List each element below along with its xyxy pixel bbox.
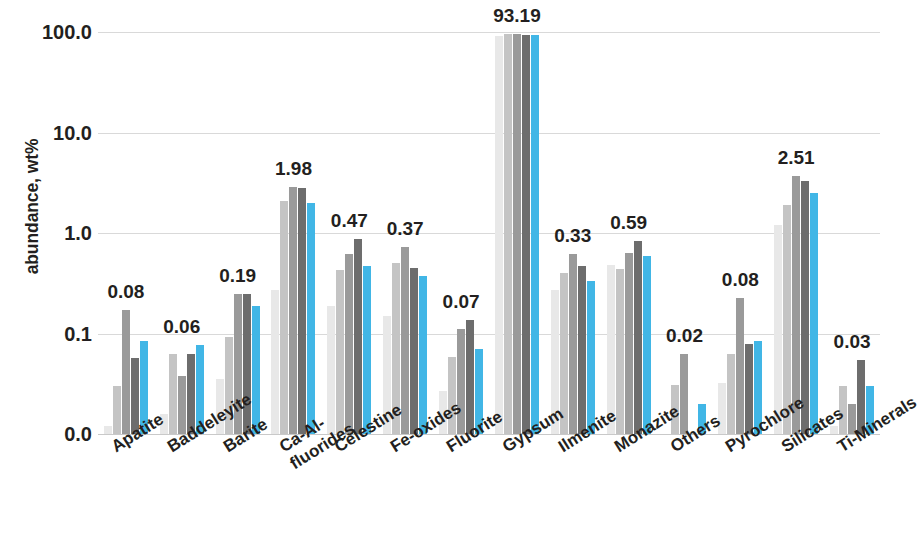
bar	[801, 181, 809, 434]
bar	[122, 310, 130, 434]
bar	[113, 386, 121, 434]
bar-group: 0.19	[210, 32, 266, 434]
bar-group-value-label: 0.19	[219, 266, 256, 285]
bar	[531, 35, 539, 434]
bar	[495, 36, 503, 434]
bar	[104, 426, 112, 434]
bar	[643, 256, 651, 434]
bar-group: 0.02	[657, 32, 713, 434]
bar-group-value-label: 93.19	[493, 6, 541, 25]
bar	[466, 320, 474, 434]
y-axis-tick-label: 100.0	[6, 22, 92, 42]
bar	[178, 376, 186, 434]
bar	[587, 281, 595, 434]
bar	[504, 34, 512, 434]
bar-group-value-label: 0.59	[610, 213, 647, 232]
bar	[289, 187, 297, 434]
y-axis-tick-label: 1.0	[6, 223, 92, 243]
bar-group: 93.19	[489, 32, 545, 434]
bar	[271, 290, 279, 434]
y-axis-tick-label: 0.1	[6, 324, 92, 344]
bars	[712, 32, 768, 434]
bar	[810, 193, 818, 434]
y-axis-tick-label: 10.0	[6, 123, 92, 143]
bars	[321, 32, 377, 434]
bar-group-value-label: 0.06	[163, 317, 200, 336]
bar-group: 0.03	[824, 32, 880, 434]
bar-group: 0.59	[601, 32, 657, 434]
bar-group-value-label: 0.03	[834, 332, 871, 351]
bars	[657, 32, 713, 434]
bar-group-value-label: 2.51	[778, 148, 815, 167]
bar-group: 0.08	[712, 32, 768, 434]
bars	[210, 32, 266, 434]
bar-group: 0.08	[98, 32, 154, 434]
bar	[345, 254, 353, 434]
bars	[768, 32, 824, 434]
bars	[154, 32, 210, 434]
bar-group-value-label: 0.08	[107, 282, 144, 301]
bar-group-value-label: 0.07	[443, 292, 480, 311]
bar	[625, 253, 633, 434]
bars	[824, 32, 880, 434]
bar-group-value-label: 0.02	[666, 326, 703, 345]
plot-area: 0.080.060.191.980.470.370.0793.190.330.5…	[98, 32, 880, 434]
bar	[401, 247, 409, 434]
bar-group-value-label: 0.33	[554, 226, 591, 245]
bar-group: 1.98	[266, 32, 322, 434]
bar	[410, 268, 418, 434]
bar-group: 2.51	[768, 32, 824, 434]
bar	[419, 276, 427, 434]
bar	[522, 35, 530, 434]
bar	[298, 188, 306, 434]
bar	[736, 298, 744, 434]
y-axis-tick-label: 0.0	[6, 424, 92, 444]
bar-group: 0.06	[154, 32, 210, 434]
bar	[727, 354, 735, 434]
bar	[680, 354, 688, 434]
bar	[569, 254, 577, 434]
bar	[634, 241, 642, 434]
bars	[489, 32, 545, 434]
bar	[578, 266, 586, 434]
bar-group-value-label: 0.47	[331, 211, 368, 230]
bar	[354, 239, 362, 434]
bars	[433, 32, 489, 434]
y-axis-tick-labels: 100.010.01.00.10.0	[0, 0, 92, 534]
bar-group: 0.37	[377, 32, 433, 434]
bar-group-value-label: 1.98	[275, 159, 312, 178]
bar	[363, 266, 371, 434]
bar	[169, 354, 177, 434]
bar	[616, 269, 624, 434]
bar-group: 0.33	[545, 32, 601, 434]
bars	[266, 32, 322, 434]
bar-group-value-label: 0.37	[387, 219, 424, 238]
bar-group: 0.07	[433, 32, 489, 434]
bar-group-value-label: 0.08	[722, 270, 759, 289]
bar	[513, 34, 521, 434]
bars	[98, 32, 154, 434]
bar	[307, 203, 315, 434]
bar-group: 0.47	[321, 32, 377, 434]
bar	[280, 201, 288, 434]
